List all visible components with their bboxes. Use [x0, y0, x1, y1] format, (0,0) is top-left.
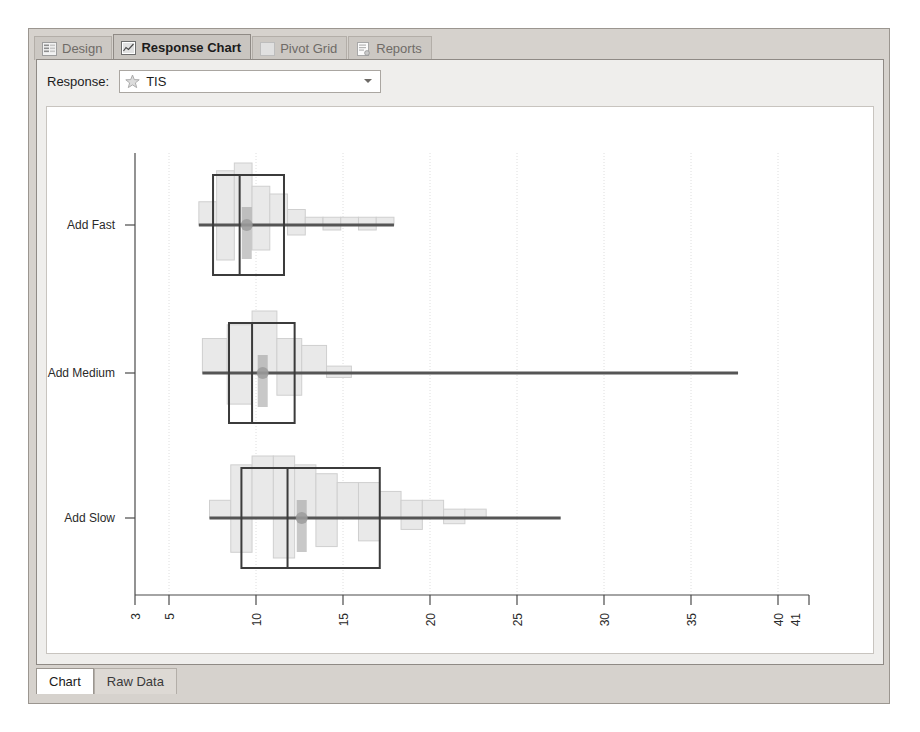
response-selector-row: Response: TIS — [37, 60, 883, 102]
x-tick-35: 35 — [685, 613, 699, 627]
histogram-bar — [217, 171, 235, 225]
x-axis-labels: 3 5 10 15 20 25 30 35 40 41 — [129, 613, 803, 627]
chart-icon — [121, 41, 136, 55]
histogram-bar — [277, 339, 302, 373]
list-lines-icon — [42, 42, 57, 56]
histogram-bar — [252, 456, 273, 518]
bottom-tab-chart-label: Chart — [49, 674, 81, 689]
histogram-bar — [227, 325, 252, 373]
tab-response-chart-label: Response Chart — [141, 40, 241, 55]
mean-marker — [242, 207, 252, 259]
x-tick-3: 3 — [129, 613, 143, 620]
boxplot-group-add-slow — [209, 456, 560, 568]
histogram-bar-mirror — [358, 518, 379, 541]
mean-point — [296, 512, 308, 524]
tab-pivot-grid-label: Pivot Grid — [280, 41, 337, 56]
histogram-bar — [252, 186, 270, 225]
y-label-add-medium: Add Medium — [48, 366, 115, 380]
histogram-bar — [202, 339, 227, 373]
bottom-tab-raw-data-label: Raw Data — [107, 674, 164, 689]
histogram-bar — [273, 456, 294, 518]
x-tick-40: 40 — [772, 613, 786, 627]
bottom-tab-raw-data[interactable]: Raw Data — [94, 668, 177, 694]
histogram-bar-mirror — [252, 225, 270, 250]
chevron-down-icon[interactable] — [364, 79, 372, 83]
histogram-bar — [209, 500, 230, 518]
tab-reports-label: Reports — [376, 41, 422, 56]
star-icon — [125, 74, 140, 89]
x-tick-10: 10 — [250, 613, 264, 627]
boxplot-group-add-fast — [199, 163, 394, 275]
histogram-bar — [422, 500, 443, 518]
tab-design-label: Design — [62, 41, 102, 56]
x-axis-ticks — [135, 595, 809, 605]
response-combobox[interactable]: TIS — [119, 70, 381, 93]
y-axis-ticks — [125, 225, 135, 518]
boxplot-series-group — [199, 163, 738, 568]
histogram-bar — [337, 483, 358, 518]
y-label-add-slow: Add Slow — [64, 511, 115, 525]
histogram-bar-mirror — [316, 518, 337, 547]
bottom-tab-strip: Chart Raw Data — [36, 666, 884, 698]
tab-response-chart[interactable]: Response Chart — [113, 34, 251, 60]
response-combobox-value: TIS — [146, 74, 166, 89]
mean-point — [241, 219, 253, 231]
boxplot-chart: Add Fast Add Medium Add Slow — [47, 107, 873, 653]
tab-pivot-grid[interactable]: Pivot Grid — [252, 36, 347, 60]
histogram-bar-mirror — [273, 518, 294, 558]
bottom-tab-chart[interactable]: Chart — [36, 668, 94, 694]
x-tick-15: 15 — [337, 613, 351, 627]
top-tab-strip: Design Response Chart Pivot Grid — [34, 34, 886, 60]
mean-marker — [258, 355, 268, 407]
x-tick-25: 25 — [511, 613, 525, 627]
screenshot-root: Design Response Chart Pivot Grid — [0, 0, 920, 732]
histogram-bar-mirror — [227, 373, 252, 404]
y-axis-labels: Add Fast Add Medium Add Slow — [48, 218, 116, 525]
response-label: Response: — [47, 74, 109, 89]
x-tick-5: 5 — [163, 613, 177, 620]
boxplot-group-add-medium — [202, 311, 738, 423]
response-chart-panel: Response: TIS — [36, 59, 884, 665]
x-tick-30: 30 — [598, 613, 612, 627]
histogram-bar-mirror — [277, 373, 302, 395]
x-tick-41: 41 — [789, 613, 803, 627]
application-window: Design Response Chart Pivot Grid — [28, 28, 890, 704]
grid-icon — [260, 42, 275, 56]
histogram-bar — [380, 491, 401, 518]
mean-point — [257, 367, 269, 379]
histogram-bar — [302, 345, 327, 373]
histogram-bar — [358, 483, 379, 518]
histogram-bar — [401, 500, 422, 518]
x-tick-20: 20 — [424, 613, 438, 627]
histogram-bar-mirror — [217, 225, 235, 260]
histogram-bar-mirror — [401, 518, 422, 529]
histogram-bar — [288, 210, 306, 226]
report-icon — [356, 42, 371, 56]
tab-reports[interactable]: Reports — [348, 36, 432, 60]
tab-design[interactable]: Design — [34, 36, 112, 60]
histogram-bar — [316, 474, 337, 518]
y-label-add-fast: Add Fast — [67, 218, 116, 232]
mean-marker — [297, 500, 307, 552]
chart-canvas: Add Fast Add Medium Add Slow — [46, 106, 874, 654]
